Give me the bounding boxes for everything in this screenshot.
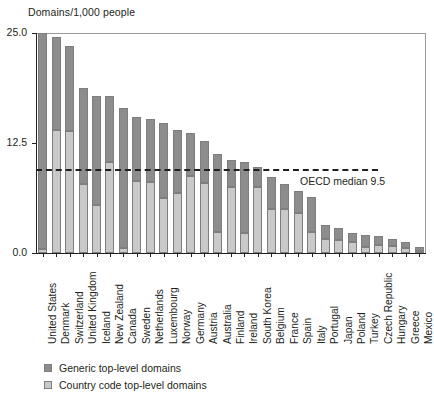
x-label-turkey: Turkey: [369, 313, 380, 344]
x-label-sweden: Sweden: [141, 307, 152, 344]
x-tick-mark: [244, 253, 245, 257]
bar-norway: [173, 33, 182, 253]
bar-segment-generic: [146, 119, 155, 181]
y-tick-mark: [32, 253, 36, 254]
bar-segment-country-code: [253, 187, 262, 253]
bar-segment-generic: [374, 236, 383, 245]
bar-segment-country-code: [38, 249, 47, 253]
bar-segment-generic: [159, 123, 168, 198]
x-tick-mark: [231, 253, 232, 257]
bar-mexico: [415, 33, 424, 253]
bar-segment-generic: [105, 96, 114, 162]
bar-segment-country-code: [213, 232, 222, 253]
bar-segment-generic: [401, 242, 410, 247]
x-label-germany: Germany: [195, 302, 206, 344]
legend-swatch-country-code-icon: [44, 381, 52, 389]
bar-germany: [186, 33, 195, 253]
bar-segment-generic: [173, 130, 182, 193]
bar-south-korea: [253, 33, 262, 253]
y-tick-1: 12.5: [0, 143, 33, 144]
bar-netherlands: [146, 33, 155, 253]
x-tick-mark: [150, 253, 151, 257]
bar-segment-country-code: [348, 242, 357, 253]
bar-japan: [334, 33, 343, 253]
x-tick-mark: [191, 253, 192, 257]
x-tick-mark: [97, 253, 98, 257]
bar-segment-country-code: [146, 182, 155, 253]
bar-belgium: [267, 33, 276, 253]
bar-segment-country-code: [267, 209, 276, 253]
legend-label-generic: Generic top-level domains: [59, 362, 181, 374]
x-tick-mark: [298, 253, 299, 257]
bar-sweden: [132, 33, 141, 253]
x-label-luxembourg: Luxembourg: [168, 287, 179, 344]
x-label-austria: Austria: [208, 312, 219, 344]
bar-switzerland: [65, 33, 74, 253]
x-label-portugal: Portugal: [329, 306, 340, 344]
x-tick-mark: [123, 253, 124, 257]
x-tick-mark: [352, 253, 353, 257]
x-label-hungary: Hungary: [396, 305, 407, 344]
x-tick-mark: [379, 253, 380, 257]
x-tick-mark: [271, 253, 272, 257]
x-tick-mark: [70, 253, 71, 257]
bar-new-zealand: [105, 33, 114, 253]
bar-segment-generic: [321, 225, 330, 239]
x-label-canada: Canada: [127, 308, 138, 344]
bar-segment-country-code: [186, 176, 195, 253]
bar-segment-generic: [227, 160, 236, 187]
x-label-czech-republic: Czech Republic: [383, 273, 394, 344]
x-label-france: France: [289, 312, 300, 344]
x-tick-mark: [419, 253, 420, 257]
legend-item-generic: Generic top-level domains: [44, 360, 207, 375]
bar-segment-country-code: [374, 245, 383, 253]
x-tick-mark: [285, 253, 286, 257]
bar-segment-country-code: [105, 162, 114, 253]
x-tick-mark: [177, 253, 178, 257]
x-label-greece: Greece: [410, 311, 421, 344]
x-label-netherlands: Netherlands: [154, 289, 165, 344]
bar-segment-generic: [280, 184, 289, 209]
bar-turkey: [361, 33, 370, 253]
bar-series-container: [36, 33, 426, 253]
x-tick-mark: [218, 253, 219, 257]
bar-canada: [119, 33, 128, 253]
bar-luxembourg: [159, 33, 168, 253]
bar-segment-country-code: [294, 213, 303, 253]
x-tick-mark: [204, 253, 205, 257]
bar-finland: [227, 33, 236, 253]
x-label-norway: Norway: [181, 309, 192, 344]
x-tick-mark: [137, 253, 138, 257]
median-dashed-line: [36, 169, 378, 171]
bar-segment-country-code: [119, 248, 128, 253]
x-label-iceland: Iceland: [101, 311, 112, 344]
bar-segment-generic: [294, 191, 303, 213]
bar-segment-country-code: [200, 183, 209, 253]
y-axis-title: Domains/1,000 people: [28, 6, 135, 18]
bar-denmark: [52, 33, 61, 253]
bar-iceland: [92, 33, 101, 253]
x-label-united-states: United States: [47, 283, 58, 344]
x-label-italy: Italy: [316, 325, 327, 344]
bar-united-states: [38, 33, 47, 253]
bar-united-kingdom: [79, 33, 88, 253]
x-tick-mark: [110, 253, 111, 257]
x-label-spain: Spain: [302, 318, 313, 344]
bar-segment-generic: [119, 108, 128, 248]
bar-segment-generic: [307, 197, 316, 232]
bar-segment-country-code: [307, 232, 316, 253]
bar-segment-country-code: [65, 131, 74, 253]
x-tick-mark: [392, 253, 393, 257]
x-label-ireland: Ireland: [248, 313, 259, 344]
x-tick-mark: [83, 253, 84, 257]
bar-czech-republic: [374, 33, 383, 253]
bar-segment-generic: [415, 247, 424, 251]
bar-segment-country-code: [52, 130, 61, 253]
bar-austria: [200, 33, 209, 253]
bar-italy: [307, 33, 316, 253]
bar-greece: [401, 33, 410, 253]
bar-segment-country-code: [92, 205, 101, 253]
x-label-south-korea: South Korea: [262, 287, 273, 344]
bar-segment-generic: [388, 239, 397, 246]
